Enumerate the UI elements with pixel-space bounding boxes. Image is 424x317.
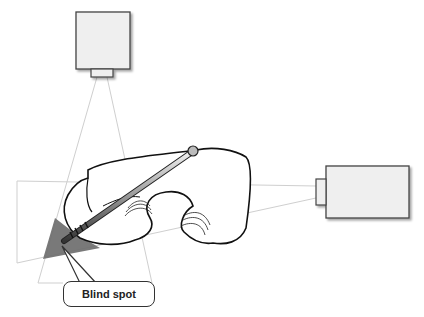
top-camera xyxy=(76,12,130,77)
side-camera xyxy=(316,166,409,218)
blind-spot-label: Blind spot xyxy=(63,281,155,307)
illustration xyxy=(0,0,424,317)
bone-illustration xyxy=(64,148,250,244)
diagram-canvas: Blind spot xyxy=(0,0,424,317)
